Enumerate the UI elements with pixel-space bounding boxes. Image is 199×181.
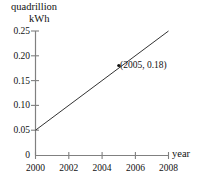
y-tick-label-0.20: 0.20 <box>2 51 30 61</box>
data-point-annotation: (2005, 0.18) <box>120 60 167 70</box>
x-tick-label-2006: 2006 <box>118 163 152 173</box>
y-tick-label-0.05: 0.05 <box>2 125 30 135</box>
y-tick-label-0.25: 0.25 <box>2 26 30 36</box>
x-tick-label-2000: 2000 <box>19 163 53 173</box>
y-tick-label-0: 0 <box>2 150 30 160</box>
data-series-line <box>36 31 169 130</box>
chart-figure: quadrillion kWh year 0.25 0.20 0.15 0.10… <box>0 0 199 181</box>
x-tick-label-2008: 2008 <box>152 163 186 173</box>
x-axis-title: year <box>172 148 190 160</box>
y-tick-label-0.10: 0.10 <box>2 100 30 110</box>
y-axis-title-line2: kWh <box>29 13 49 25</box>
y-axis-title-line1: quadrillion <box>11 1 57 13</box>
x-tick-label-2002: 2002 <box>52 163 86 173</box>
x-tick-label-2004: 2004 <box>85 163 119 173</box>
y-tick-label-0.15: 0.15 <box>2 76 30 86</box>
